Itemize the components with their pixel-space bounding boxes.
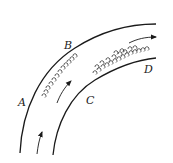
curved-channel-diagram: A B C D (0, 0, 173, 163)
flow-arrow-middle (57, 81, 71, 103)
label-b: B (63, 39, 72, 52)
flow-arrow-bottom (37, 132, 42, 154)
label-a: A (17, 96, 26, 109)
flow-arrow-top (129, 37, 156, 43)
label-d: D (143, 63, 153, 76)
label-c: C (86, 94, 95, 107)
inner-wall (53, 58, 156, 155)
outer-wall (20, 24, 156, 153)
